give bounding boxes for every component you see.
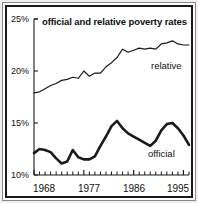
y-axis-tick-label-3: 10%	[3, 170, 29, 180]
x-axis-tick-label-3: 1995	[161, 183, 195, 194]
chart-canvas	[0, 0, 198, 203]
x-axis-tick-label-0: 1968	[27, 183, 61, 194]
y-axis-tick-label-1: 20%	[3, 66, 29, 76]
series-label-official: official	[148, 148, 175, 159]
series-label-relative: relative	[151, 60, 182, 71]
x-axis-tick-label-1: 1977	[72, 183, 106, 194]
plot-area: official and relative poverty rates 25% …	[0, 0, 198, 203]
x-axis-tick-label-2: 1986	[117, 183, 151, 194]
y-axis-tick-label-0: 25%	[3, 14, 29, 24]
y-axis-tick-label-2: 15%	[3, 118, 29, 128]
chart-title: official and relative poverty rates	[42, 16, 187, 27]
chart-figure: official and relative poverty rates 25% …	[0, 0, 198, 203]
